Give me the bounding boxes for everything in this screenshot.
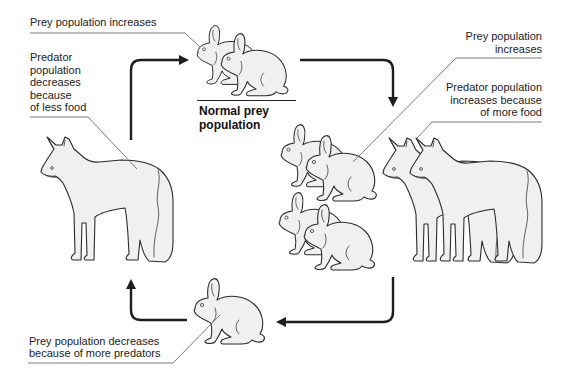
label-line: increases (466, 43, 542, 56)
label-line: decreases (30, 76, 86, 89)
cycle-arrow-top-right (300, 60, 393, 102)
rabbit-single-bottom (194, 279, 264, 344)
label-prey-increases-top: Prey population increases (30, 16, 157, 29)
fox-icon (41, 137, 173, 262)
leader-line-predator-increases (417, 122, 542, 138)
label-line: because (30, 89, 86, 102)
predator-prey-diagram: Prey population increases Predator popul… (0, 0, 569, 385)
leader-line-top-prey (30, 33, 200, 47)
label-line: Normal prey (199, 105, 269, 119)
label-line: of less food (30, 101, 86, 114)
label-line: Predator (30, 51, 86, 64)
label-normal-prey-population: Normal prey population (199, 105, 269, 132)
label-line: increases because (446, 94, 542, 107)
rabbit-icon (194, 279, 264, 344)
label-line: because of more predators (29, 348, 160, 360)
cycle-arrow-bottom-right (281, 277, 393, 322)
label-line: of more food (446, 106, 542, 119)
label-predator-increases: Predator population increases because of… (446, 81, 542, 119)
label-prey-decreases: Prey population decreases because of mor… (29, 336, 160, 360)
label-line: population (30, 64, 86, 77)
label-predator-decreases: Predator population decreases because of… (30, 51, 86, 114)
label-line: Predator population (446, 81, 542, 94)
fox-left (41, 137, 173, 262)
label-line: population (199, 119, 269, 133)
cycle-arrow-bottom-left (131, 284, 187, 320)
label-text: Prey population increases (30, 16, 157, 29)
rabbit-group-right (279, 125, 376, 270)
rabbit-pair-top (197, 26, 288, 96)
cycle-arrow-top-left (131, 60, 184, 140)
label-line: Prey population (466, 30, 542, 43)
fox-pair-right (383, 138, 542, 263)
label-prey-increases-right: Prey population increases (466, 30, 542, 55)
